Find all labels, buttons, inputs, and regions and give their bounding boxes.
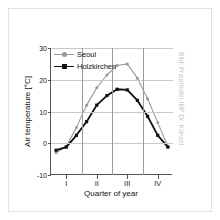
legend-square-marker-icon (62, 64, 67, 69)
data-point-marker (166, 145, 169, 148)
x-tick-label: I (65, 180, 67, 188)
data-point-marker (65, 145, 68, 148)
x-tick-label: IV (154, 180, 161, 188)
legend-label: Holzkirchen (77, 63, 116, 71)
data-point-marker (95, 104, 98, 107)
y-tick-label: -10 (37, 172, 47, 179)
data-point-marker (85, 120, 88, 123)
y-tick-mark (48, 48, 51, 49)
y-tick-mark (48, 80, 51, 81)
legend-item: Holzkirchen (54, 62, 116, 71)
credit-text: Bild: Fraunhofer IBP Dr. Künzel (176, 52, 186, 168)
data-point-marker (146, 115, 149, 118)
data-point-marker (156, 121, 159, 124)
data-point-marker (75, 134, 78, 137)
y-tick-label: 0 (43, 140, 47, 147)
data-point-marker (126, 88, 129, 91)
y-tick-mark (48, 112, 51, 113)
data-point-marker (146, 97, 149, 100)
x-tick-label: II (95, 180, 99, 188)
quarter-divider (143, 48, 144, 175)
data-point-marker (136, 99, 139, 102)
y-tick-label: 10 (39, 108, 47, 115)
data-point-marker (75, 126, 78, 129)
legend-item: Seoul (54, 50, 116, 59)
data-point-marker (85, 104, 88, 107)
data-point-marker (115, 88, 118, 91)
x-axis-label: Quarter of year (50, 190, 172, 198)
chart-figure: Air temperature [°C] -100102030 IIIIIIIV… (0, 0, 220, 220)
y-axis-label: Air temperature [°C] (22, 48, 33, 175)
y-tick-mark (48, 175, 51, 176)
chart-legend: SeoulHolzkirchen (54, 50, 116, 74)
data-point-marker (54, 149, 57, 152)
data-point-marker (126, 62, 129, 65)
data-point-marker (105, 94, 108, 97)
legend-swatch (54, 62, 74, 71)
data-point-marker (156, 134, 159, 137)
y-tick-label: 30 (39, 45, 47, 52)
y-tick-label: 20 (39, 76, 47, 83)
data-point-marker (95, 86, 98, 89)
legend-circle-marker-icon (62, 52, 67, 57)
legend-swatch (54, 50, 74, 59)
y-tick-mark (48, 143, 51, 144)
legend-label: Seoul (77, 51, 96, 59)
x-tick-label: III (124, 180, 130, 188)
